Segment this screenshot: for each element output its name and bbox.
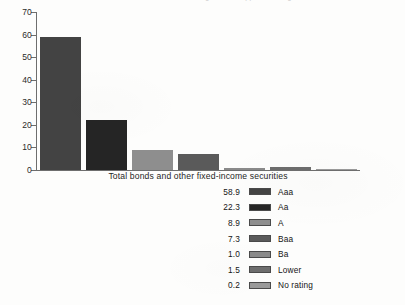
legend-row: 7.3Baa — [196, 231, 313, 247]
legend-swatch — [249, 266, 271, 273]
legend-swatch — [249, 219, 271, 226]
legend-label: A — [271, 218, 284, 228]
x-axis-category-label: Total bonds and other fixed-income secur… — [36, 171, 360, 181]
legend-label: Aaa — [271, 187, 293, 197]
legend-swatch — [249, 282, 271, 289]
legend-row: 0.2No rating — [196, 278, 313, 294]
legend-row: 1.0Ba — [196, 246, 313, 262]
legend-label: Aa — [271, 202, 288, 212]
legend-swatch — [249, 235, 271, 242]
legend-swatch — [249, 204, 271, 211]
y-axis-tick-label: 40 — [8, 75, 32, 85]
legend-value: 0.2 — [196, 280, 249, 290]
y-axis-tick-label: 50 — [8, 52, 32, 62]
bar-chart-figure: fragment of clipped heading text 0102030… — [0, 0, 405, 305]
chart-legend: 58.9Aaa22.3Aa8.9A7.3Baa1.0Ba1.5Lower0.2N… — [196, 184, 313, 293]
legend-value: 22.3 — [196, 202, 249, 212]
bar — [86, 120, 127, 170]
clipped-header-text: fragment of clipped heading text — [0, 0, 405, 7]
bar — [40, 37, 81, 170]
legend-label: Lower — [271, 265, 301, 275]
legend-value: 1.0 — [196, 249, 249, 259]
legend-row: 8.9A — [196, 215, 313, 231]
bar — [224, 168, 265, 170]
bar-series-group — [37, 12, 360, 170]
legend-value: 1.5 — [196, 265, 249, 275]
y-axis-tick-label: 70 — [8, 7, 32, 17]
y-axis-tick-label: 10 — [8, 142, 32, 152]
y-axis-tick-label: 60 — [8, 30, 32, 40]
legend-value: 7.3 — [196, 234, 249, 244]
bar — [178, 154, 219, 170]
legend-label: Baa — [271, 234, 293, 244]
y-axis-tick-label: 0 — [8, 165, 32, 175]
legend-value: 58.9 — [196, 187, 249, 197]
legend-row: 1.5Lower — [196, 262, 313, 278]
legend-label: Ba — [271, 249, 288, 259]
bar — [316, 169, 357, 170]
legend-value: 8.9 — [196, 218, 249, 228]
bar — [132, 150, 173, 170]
y-axis-tick-label: 20 — [8, 120, 32, 130]
bar — [270, 167, 311, 170]
legend-row: 22.3Aa — [196, 200, 313, 216]
legend-swatch — [249, 251, 271, 258]
legend-row: 58.9Aaa — [196, 184, 313, 200]
legend-swatch — [249, 188, 271, 195]
y-axis-tick-label: 30 — [8, 97, 32, 107]
legend-label: No rating — [271, 280, 313, 290]
